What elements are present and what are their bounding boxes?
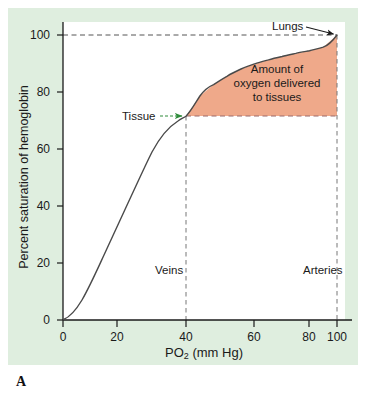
arteries-label: Arteries (303, 264, 343, 277)
y-axis-title: Percent saturation of hemoglobin (17, 77, 31, 277)
x-tick-label-100: 100 (317, 331, 357, 343)
x-tick-label-20: 20 (97, 331, 137, 343)
figure-panel-label: A (16, 374, 26, 390)
lungs-arrow (306, 27, 334, 34)
figure-oxygen-dissociation-curve: 100 80 60 40 20 0 0 20 40 60 80 100 Perc… (0, 0, 383, 394)
shaded-region-caption-line-2: oxygen delivered (218, 76, 336, 90)
veins-label: Veins (155, 264, 183, 277)
shaded-region-caption: Amount of oxygen delivered to tissues (218, 62, 336, 104)
y-tick-label-100: 100 (16, 29, 50, 41)
shaded-region-caption-line-1: Amount of (218, 62, 336, 76)
x-tick-label-40: 40 (166, 331, 206, 343)
x-tick-label-0: 0 (43, 331, 83, 343)
x-tick-label-60: 60 (234, 331, 274, 343)
x-axis-ticks (63, 320, 337, 327)
lungs-label: Lungs (272, 20, 303, 33)
shaded-region-caption-line-3: to tissues (218, 90, 336, 104)
y-axis-ticks (57, 35, 63, 320)
x-axis-title-subscript: 2 (184, 351, 189, 361)
tissue-label: Tissue (122, 110, 155, 123)
y-tick-label-0: 0 (16, 314, 50, 326)
x-axis-title-base: PO (165, 345, 184, 360)
x-axis-title-unit: (mm Hg) (189, 345, 243, 360)
x-axis-title: PO2 (mm Hg) (63, 345, 345, 360)
